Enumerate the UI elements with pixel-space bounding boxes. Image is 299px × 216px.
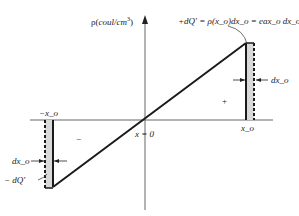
left-charge-label: − dQ′	[4, 175, 26, 185]
left-position-label: −x_o	[39, 108, 59, 118]
right-charge-strip	[246, 43, 254, 120]
right-position-label: x_o	[240, 123, 254, 133]
y-axis-label: ρ(coul/cm3)	[91, 16, 133, 27]
charge-density-diagram: ρ(coul/cm3) +dQ′ = ρ(x_o)dx_o = eax_o dx…	[0, 0, 299, 216]
right-charge-equation: +dQ′ = ρ(x_o)dx_o = eax_o dx_o	[178, 16, 299, 26]
positive-region-sign: +	[222, 96, 227, 106]
left-charge-strip	[45, 120, 53, 189]
y-axis-arrow-icon	[142, 15, 148, 24]
negative-region-sign: −	[76, 134, 81, 144]
equation-leader-line	[228, 26, 247, 44]
y-axis	[142, 15, 148, 210]
right-width-label: dx_o	[271, 75, 289, 85]
charge-density-line	[53, 43, 246, 187]
left-width-label: dx_o	[12, 156, 30, 166]
origin-label: x = 0	[134, 129, 155, 139]
